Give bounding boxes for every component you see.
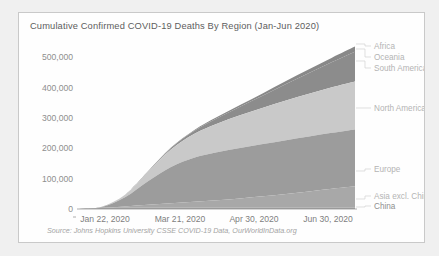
legend-leader-line <box>356 196 371 199</box>
legend-label-europe[interactable]: Europe <box>374 165 401 174</box>
y-axis-tick-label: 300,000 <box>42 113 73 123</box>
x-axis-group: Jan 22, 2020Mar 21, 2020Apr 30, 2020Jun … <box>73 214 353 224</box>
legend-leader-line <box>356 169 371 171</box>
legend-leader-line <box>356 49 371 57</box>
x-axis-tick-label: Mar 21, 2020 <box>155 214 206 224</box>
legend-leader-line <box>356 61 371 68</box>
legend-label-north-america[interactable]: North America <box>374 104 424 113</box>
legend-label-oceania[interactable]: Oceania <box>374 53 405 62</box>
chart-card: Cumulative Confirmed COVID-19 Deaths By … <box>18 12 425 243</box>
y-axis-tick-label: 500,000 <box>42 52 73 62</box>
area-series-group <box>79 47 355 209</box>
legend-leader-line <box>356 44 371 46</box>
x-axis-tick-label: Apr 30, 2020 <box>229 214 278 224</box>
chart-plot-area: 0100,000200,000300,000400,000500,000 Jan… <box>19 13 424 242</box>
legend-label-africa[interactable]: Africa <box>374 42 395 51</box>
chart-legend: AfricaOceaniaSouth AmericaNorth AmericaE… <box>356 42 424 211</box>
y-axis-tick-label: 100,000 <box>42 174 73 184</box>
legend-label-south-america[interactable]: South America <box>374 64 424 73</box>
legend-label-china[interactable]: China <box>374 202 396 211</box>
y-axis-tick-label: 200,000 <box>42 143 73 153</box>
x-axis-tick-label: Jun 30, 2020 <box>303 214 353 224</box>
stacked-area-chart: 0100,000200,000300,000400,000500,000 Jan… <box>19 13 424 242</box>
legend-label-asia-excl-china[interactable]: Asia excl. China <box>374 192 424 201</box>
y-axis-tick-label: 400,000 <box>42 83 73 93</box>
x-axis-tick-label: Jan 22, 2020 <box>80 214 130 224</box>
y-axis-tick-label: 0 <box>68 204 73 214</box>
legend-leader-line <box>356 206 371 207</box>
source-caption: Source: Johns Hopkins University CSSE CO… <box>47 226 297 235</box>
